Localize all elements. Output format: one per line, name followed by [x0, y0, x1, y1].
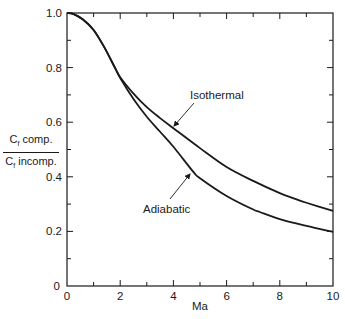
- y-tick-label: 0.8: [46, 62, 62, 74]
- y-axis-title: Cf comp. Cf incomp.: [3, 132, 59, 173]
- axis-tick-labels: 024681000.20.40.60.81.0: [46, 7, 339, 302]
- x-tick-label: 6: [223, 290, 229, 302]
- arrow-adiabatic: [170, 174, 190, 199]
- series-isothermal: [67, 13, 333, 211]
- y-den-symbol: C: [5, 155, 13, 167]
- y-axis-title-denominator: Cf incomp.: [3, 153, 59, 173]
- y-tick-label: 0.6: [46, 116, 62, 128]
- x-tick-label: 2: [117, 290, 123, 302]
- data-series: [67, 13, 333, 232]
- x-tick-label: 10: [327, 290, 340, 302]
- y-axis-title-numerator: Cf comp.: [3, 132, 59, 153]
- y-tick-label: 0.2: [46, 225, 62, 237]
- y-den-text: incomp.: [15, 155, 57, 167]
- x-axis-title: Ma: [192, 300, 209, 312]
- series-adiabatic: [67, 13, 333, 232]
- annotation-isothermal: Isothermal: [190, 89, 244, 101]
- annotation-adiabatic: Adiabatic: [143, 203, 191, 215]
- y-tick-label: 0: [54, 280, 60, 292]
- y-tick-label: 1.0: [46, 7, 62, 19]
- y-num-text: comp.: [19, 133, 52, 145]
- x-tick-label: 0: [64, 290, 70, 302]
- x-tick-label: 8: [277, 290, 283, 302]
- x-tick-label: 4: [170, 290, 177, 302]
- arrow-isothermal: [174, 103, 194, 126]
